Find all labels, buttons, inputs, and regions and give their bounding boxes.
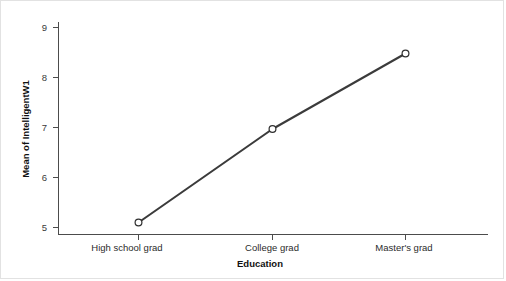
y-tick-label-9: 9: [42, 22, 47, 33]
x-tick-label-high-school-grad: High school grad: [91, 242, 162, 253]
y-tick-label-5: 5: [42, 222, 47, 233]
y-tick-label-8: 8: [42, 72, 47, 83]
chart-figure: 9 8 7 6 5 Mean of IntelligentW1 High sch…: [0, 0, 504, 279]
marker-high-school-grad: [135, 219, 142, 226]
y-axis-ticks: [53, 28, 59, 228]
line-chart-canvas: 9 8 7 6 5 Mean of IntelligentW1 High sch…: [1, 1, 505, 280]
y-tick-label-7: 7: [42, 122, 47, 133]
y-axis-title: Mean of IntelligentW1: [20, 79, 31, 177]
x-tick-label-college-grad: College grad: [245, 242, 299, 253]
x-axis-ticks: [139, 235, 406, 241]
x-tick-label-masters-grad: Master's grad: [375, 242, 432, 253]
y-tick-label-6: 6: [42, 172, 47, 183]
data-point-markers: [135, 50, 409, 226]
marker-college-grad: [269, 126, 276, 133]
x-axis-title: Education: [237, 258, 283, 269]
series-line-mean-intelligentw1: [139, 54, 406, 223]
marker-masters-grad: [402, 50, 409, 57]
